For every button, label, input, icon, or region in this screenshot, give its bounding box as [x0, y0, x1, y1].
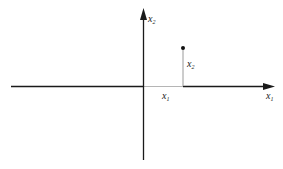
vector-point — [181, 46, 185, 50]
x2-component-label: x2 — [186, 58, 194, 70]
x2-axis-arrowhead-icon — [140, 8, 147, 20]
vertical-axis-label: x2 — [147, 13, 155, 25]
horizontal-axis-label: x1 — [265, 90, 273, 102]
x1-axis-arrowhead-icon — [263, 83, 275, 90]
coordinate-diagram: x2 x1 x2 x1 — [0, 0, 283, 169]
x1-component-label: x1 — [161, 90, 169, 102]
